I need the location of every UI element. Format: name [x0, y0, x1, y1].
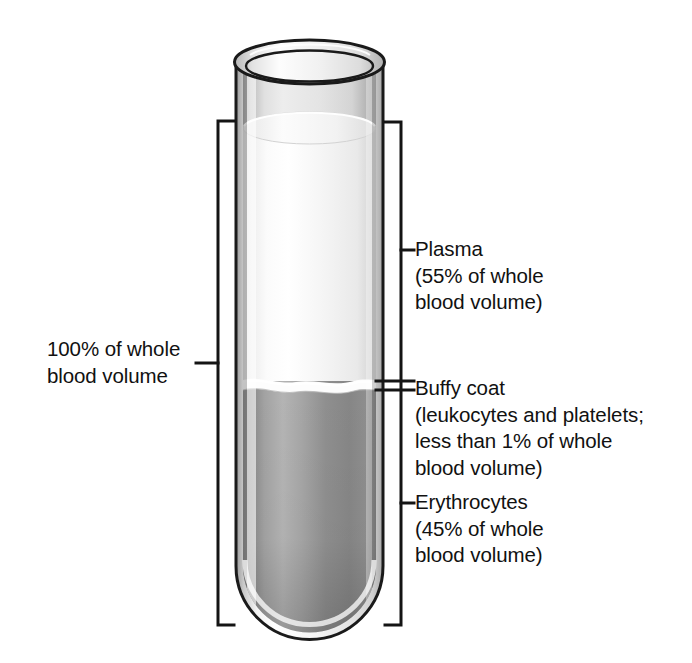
glass-inner-shadow-right — [372, 55, 376, 645]
label-erythrocytes-title: Erythrocytes — [415, 489, 544, 516]
plasma-layer — [243, 128, 376, 381]
glass-inner-shadow-left — [243, 55, 247, 645]
bracket-total-volume-outline — [218, 121, 234, 625]
label-erythrocytes-line-3: blood volume) — [415, 542, 544, 569]
glass-highlight-left — [247, 55, 256, 645]
label-buffy-coat-line-2: (leukocytes and platelets; — [415, 402, 644, 429]
bracket-layers-outline — [385, 122, 401, 625]
label-buffy-coat-line-3: less than 1% of whole — [415, 428, 644, 455]
label-plasma-title: Plasma — [415, 236, 544, 263]
label-total-volume-line-1: 100% of whole — [47, 336, 180, 363]
label-total-volume: 100% of whole blood volume — [47, 336, 180, 389]
label-erythrocytes-line-2: (45% of whole — [415, 516, 544, 543]
label-erythrocytes: Erythrocytes (45% of whole blood volume) — [415, 489, 544, 569]
label-plasma-line-2: (55% of whole — [415, 263, 544, 290]
blood-composition-figure — [0, 0, 692, 663]
label-buffy-coat: Buffy coat (leukocytes and platelets; le… — [415, 375, 644, 481]
erythrocyte-bottom-shading — [243, 381, 376, 636]
label-buffy-coat-title: Buffy coat — [415, 375, 644, 402]
test-tube — [235, 40, 385, 645]
tube-contents — [240, 55, 380, 645]
tube-rim-outer — [235, 40, 385, 84]
label-total-volume-line-2: blood volume — [47, 363, 180, 390]
label-plasma: Plasma (55% of whole blood volume) — [415, 236, 544, 316]
label-plasma-line-3: blood volume) — [415, 289, 544, 316]
glass-highlight-right — [366, 55, 372, 645]
label-buffy-coat-line-4: blood volume) — [415, 455, 644, 482]
bracket-total-volume — [196, 121, 234, 625]
